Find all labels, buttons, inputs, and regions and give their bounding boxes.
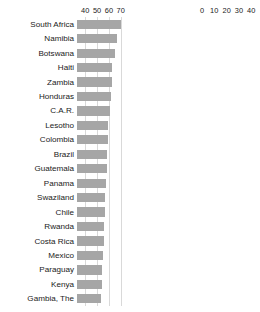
bar-row bbox=[77, 219, 126, 233]
x-tick-label: 20 bbox=[222, 6, 230, 16]
x-tick-label: 30 bbox=[235, 6, 243, 16]
bar-row bbox=[77, 17, 126, 31]
bar[interactable] bbox=[77, 49, 115, 58]
bar-row bbox=[77, 248, 126, 262]
bar[interactable] bbox=[77, 135, 108, 144]
x-tick-label: 40 bbox=[247, 6, 255, 16]
category-label: Namibia bbox=[2, 31, 74, 45]
bars-left bbox=[77, 17, 126, 306]
category-label: Panama bbox=[2, 176, 74, 190]
bar-row bbox=[77, 46, 126, 60]
category-label: Zambia bbox=[2, 75, 74, 89]
category-label: Rwanda bbox=[2, 219, 74, 233]
category-label: Paraguay bbox=[2, 263, 74, 277]
category-label: Botswana bbox=[2, 46, 74, 60]
bar[interactable] bbox=[77, 63, 112, 72]
category-labels-left: South AfricaNamibiaBotswanaHaitiZambiaHo… bbox=[2, 17, 74, 306]
category-label: Brazil bbox=[2, 147, 74, 161]
bar[interactable] bbox=[77, 222, 104, 231]
bar-row bbox=[77, 263, 126, 277]
bar-row bbox=[77, 147, 126, 161]
bar-row bbox=[77, 75, 126, 89]
bar[interactable] bbox=[77, 121, 108, 130]
bar[interactable] bbox=[77, 236, 104, 245]
category-label: South Africa bbox=[2, 17, 74, 31]
category-label: Chile bbox=[2, 205, 74, 219]
bar-row bbox=[77, 176, 126, 190]
x-tick-label: 10 bbox=[210, 6, 218, 16]
bar[interactable] bbox=[77, 280, 102, 289]
bar-row bbox=[77, 60, 126, 74]
bar-row bbox=[77, 104, 126, 118]
bar-row bbox=[77, 118, 126, 132]
x-axis-tick-labels-left: 40506070 bbox=[0, 6, 130, 17]
bar[interactable] bbox=[77, 20, 121, 29]
x-tick-label: 0 bbox=[200, 6, 204, 16]
category-label: Haiti bbox=[2, 60, 74, 74]
category-label: Colombia bbox=[2, 133, 74, 147]
x-tick-label: 70 bbox=[117, 6, 125, 16]
x-tick-label: 40 bbox=[81, 6, 89, 16]
gini-index-bar-chart-figure: 40506070 South AfricaNamibiaBotswanaHait… bbox=[0, 0, 259, 312]
category-label: Mexico bbox=[2, 248, 74, 262]
x-tick-label: 60 bbox=[105, 6, 113, 16]
x-axis-tick-labels-right: 010203040 bbox=[130, 6, 260, 17]
bar[interactable] bbox=[77, 207, 105, 216]
bar[interactable] bbox=[77, 77, 112, 86]
bar-row bbox=[77, 31, 126, 45]
category-label: Kenya bbox=[2, 277, 74, 291]
bar[interactable] bbox=[77, 294, 101, 303]
category-label: C.A.R. bbox=[2, 104, 74, 118]
bar[interactable] bbox=[77, 106, 110, 115]
bar[interactable] bbox=[77, 251, 103, 260]
bar[interactable] bbox=[77, 34, 117, 43]
category-label: Lesotho bbox=[2, 118, 74, 132]
bar-row bbox=[77, 190, 126, 204]
bar-row bbox=[77, 292, 126, 306]
bar[interactable] bbox=[77, 92, 111, 101]
bar-row bbox=[77, 89, 126, 103]
bar-row bbox=[77, 133, 126, 147]
chart-panel-left: 40506070 South AfricaNamibiaBotswanaHait… bbox=[0, 0, 130, 312]
x-tick-label: 50 bbox=[93, 6, 101, 16]
category-label: Honduras bbox=[2, 89, 74, 103]
category-label: Guatemala bbox=[2, 162, 74, 176]
bar-row bbox=[77, 162, 126, 176]
category-label: Gambia, The bbox=[2, 292, 74, 306]
bar[interactable] bbox=[77, 150, 107, 159]
bar-row bbox=[77, 277, 126, 291]
bar[interactable] bbox=[77, 265, 102, 274]
chart-panel-right: 010203040 UkraineSloveniaSwedenIcelandCz… bbox=[130, 0, 260, 312]
bar-row bbox=[77, 205, 126, 219]
plot-area-left bbox=[77, 17, 126, 306]
bar[interactable] bbox=[77, 164, 107, 173]
bar[interactable] bbox=[77, 193, 105, 202]
category-label: Swaziland bbox=[2, 190, 74, 204]
bar[interactable] bbox=[77, 179, 106, 188]
bar-row bbox=[77, 234, 126, 248]
category-label: Costa Rica bbox=[2, 234, 74, 248]
